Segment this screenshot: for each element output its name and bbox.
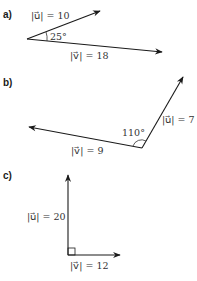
u-magnitude-label: |u⃗| = 20: [27, 211, 66, 223]
part-a-label: a): [3, 9, 12, 20]
part-b: b) 110° |u⃗| = 7 |v⃗| = 9: [3, 77, 194, 157]
angle-label: 25°: [50, 31, 67, 42]
v-magnitude-label: |v⃗| = 18: [70, 50, 109, 62]
right-angle-icon: [68, 248, 75, 255]
part-b-label: b): [3, 77, 12, 88]
part-a: a) |u⃗| = 10 25° |v⃗| = 18: [3, 9, 162, 62]
vector-u-arrow: [142, 77, 183, 148]
part-c-label: c): [3, 170, 12, 181]
v-magnitude-label: |v⃗| = 12: [70, 260, 109, 272]
v-magnitude-label: |v⃗| = 9: [71, 145, 103, 157]
u-magnitude-label: |u⃗| = 7: [162, 114, 194, 126]
part-c: c) |u⃗| = 20 |v⃗| = 12: [3, 170, 120, 272]
angle-arc-icon: [46, 32, 47, 41]
u-magnitude-label: |u⃗| = 10: [31, 10, 70, 22]
angle-label: 110°: [122, 127, 145, 138]
vector-diagram: a) |u⃗| = 10 25° |v⃗| = 18 b) 110° |u⃗| …: [0, 0, 197, 281]
